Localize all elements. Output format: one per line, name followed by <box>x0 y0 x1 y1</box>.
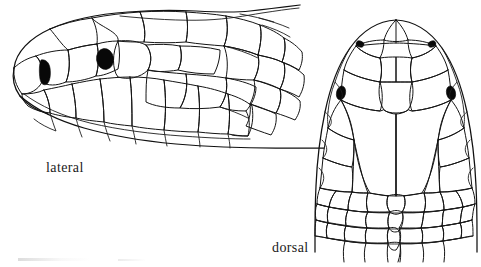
infralabial-4 <box>132 126 136 144</box>
figure-plate: lateral dorsal <box>0 0 481 267</box>
lateral-rostral-scale <box>14 56 43 94</box>
dorsal-temporal-left-3 <box>320 158 353 192</box>
nape-row-arc-3 <box>315 236 473 244</box>
nape-scale-r4-r3 <box>443 238 461 262</box>
nape-scale-r1-l1 <box>367 193 391 213</box>
scan-artifact-left <box>18 258 90 261</box>
dorsal-prefrontal-left <box>344 46 382 82</box>
lateral-postocular-lower <box>178 46 220 74</box>
nape-scale-r2-r2 <box>421 210 444 228</box>
dorsal-supraocular-right <box>410 70 451 111</box>
illustration-canvas <box>0 0 481 267</box>
nape-scale-r1-r4 <box>456 188 475 207</box>
dorsal-prefrontal-right <box>411 46 449 82</box>
caption-dorsal: dorsal <box>272 240 309 256</box>
supralabial-3 <box>72 79 104 122</box>
nape-scale-r2-l1 <box>366 212 390 229</box>
dorsal-supraocular-left <box>341 70 382 111</box>
caption-lateral: lateral <box>46 160 84 176</box>
nape-scale-r3-r1 <box>399 228 423 244</box>
lateral-loreal-scale <box>66 44 98 82</box>
lateral-head-dorsal-outline <box>14 5 300 68</box>
nape-scale-r3-c0 <box>387 227 400 250</box>
dorsal-prefrontal-median-left <box>380 57 396 82</box>
dorsal-view-group <box>315 20 477 262</box>
neck-row-divider-1 <box>224 46 258 58</box>
nape-scale-r1-r1 <box>402 193 426 213</box>
nape-scale-r4-r2 <box>422 241 443 262</box>
nape-scale-r4-r1 <box>400 243 422 262</box>
eye-mark-dorsal-right <box>445 85 457 101</box>
infralabial-7 <box>228 134 230 148</box>
nape-scale-r1-l4 <box>317 188 336 207</box>
infralabial-6 <box>198 132 200 147</box>
dorsal-parietal-left <box>341 100 396 196</box>
nostril-mark-lateral <box>39 60 50 85</box>
nape-scale-r4-l1 <box>366 243 388 262</box>
nape-scale-r3-l1 <box>365 228 389 244</box>
lateral-anterior-temporal <box>146 70 187 108</box>
nape-scale-r3-l4 <box>315 220 328 238</box>
nape-scale-r4-l3 <box>327 238 345 262</box>
nape-scale-r2-l2 <box>346 210 368 228</box>
lateral-prefrontal-scale <box>50 18 97 50</box>
lateral-lower-jaw-outline <box>20 96 324 148</box>
dorsal-frontal-shield <box>379 82 413 113</box>
supralabial-6 <box>164 80 200 132</box>
dorsal-temporal-right-inner <box>424 140 440 193</box>
dorsal-parietal-right <box>396 100 451 196</box>
eye-mark-dorsal-left <box>335 85 347 101</box>
infralabial-5 <box>164 130 167 146</box>
nape-scale-r2-r1 <box>399 212 424 229</box>
supralabial-5 <box>130 77 166 130</box>
neck-row-divider-2 <box>220 107 248 118</box>
infralabial-1 <box>34 113 56 131</box>
dorsal-temporal-left-inner <box>352 140 368 193</box>
dorsal-prefrontal-median-right <box>396 57 412 82</box>
supralabial-4 <box>100 77 132 126</box>
supralabial-7 <box>198 86 230 134</box>
neck-scale-b2 <box>280 63 304 97</box>
dorsal-head-outline-right <box>396 20 477 252</box>
neck-scale-a1 <box>224 16 261 55</box>
lateral-postocular-upper <box>146 44 181 71</box>
neck-scale-c2 <box>276 89 300 120</box>
lateral-chin-groove <box>24 94 250 139</box>
nape-scale-r3-r2 <box>421 226 444 243</box>
lateral-parietal-scale <box>186 12 227 46</box>
neck-scale-a3 <box>282 38 302 70</box>
infralabial-3 <box>104 122 110 141</box>
dorsal-temporal-right-2 <box>438 128 469 167</box>
neck-scale-a2 <box>258 25 285 62</box>
nape-scale-r4-l2 <box>345 241 366 262</box>
nape-scale-r3-l2 <box>344 226 367 243</box>
lateral-view-group <box>13 5 324 148</box>
dorsal-temporal-right-3 <box>439 158 472 192</box>
scan-artifact-right <box>118 259 146 261</box>
lateral-frontal-scale <box>92 12 145 42</box>
dorsal-temporal-left-2 <box>323 128 354 167</box>
lateral-supraocular-scale <box>140 11 188 43</box>
neck-scale-edge-3 <box>240 14 274 22</box>
